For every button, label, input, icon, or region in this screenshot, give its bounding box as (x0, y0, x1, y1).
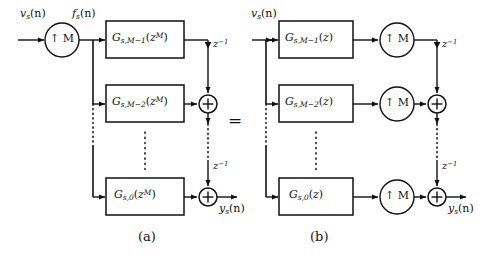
b-input-label: vs(n) (251, 8, 277, 20)
a-delay2-exp: −1 (218, 160, 228, 168)
b-upsampler-label-top: ↑ M (385, 33, 409, 44)
figure-canvas (0, 0, 504, 261)
a-delay-label-2: z−1 (213, 161, 228, 171)
b-filter-bot-base: G (289, 188, 298, 201)
a-inner-f-arg: (n) (80, 7, 96, 20)
a-input-v-arg: (n) (30, 7, 46, 20)
b-delay1-arrowhead (434, 42, 441, 49)
caption-b: (b) (310, 230, 328, 243)
a-delay1-exp: −1 (218, 38, 228, 46)
a-filter-top-close: ) (163, 31, 167, 44)
a-filter-label-bot: Gs,0(zM) (114, 189, 156, 201)
b-delay1-exp: −1 (447, 38, 457, 46)
b-filter-top-sub: s,M−1 (294, 36, 319, 45)
a-filter-bot-sup: M (144, 188, 152, 197)
a-delay-label-1: z−1 (213, 39, 228, 49)
b-filter-mid-close: ) (329, 95, 333, 108)
a-inner-label: fs(n) (72, 8, 96, 20)
b-output-label: ys(n) (448, 203, 474, 215)
a-filter-bot-base: G (114, 188, 123, 201)
b-filter-top-base: G (285, 31, 294, 44)
a-input-label: vs(n) (20, 8, 46, 20)
a-filter-label-top: Gs,M−1(zM) (112, 32, 168, 44)
caption-a: (a) (138, 230, 156, 243)
b-filter-label-mid: Gs,M−2(z) (285, 96, 333, 108)
a-filter-bot-close: ) (152, 188, 156, 201)
a-filter-mid-close: ) (163, 95, 167, 108)
b-filter-bot-sub: s,0 (298, 193, 309, 202)
a-delay1-arrowhead (205, 42, 212, 49)
b-output-y-arg: (n) (458, 202, 474, 215)
a-output-label: ys(n) (219, 203, 245, 215)
equivalence-sign: = (228, 112, 242, 129)
a-filter-mid-sub: s,M−2 (121, 100, 146, 109)
b-filter-label-top: Gs,M−1(z) (285, 32, 333, 44)
b-filter-top-close: ) (329, 31, 333, 44)
b-filter-label-bot: Gs,0(z) (289, 189, 323, 201)
b-upsampler-label-mid: ↑ M (385, 97, 409, 108)
a-upsampler-label: ↑ M (50, 33, 74, 44)
a-filter-bot-sub: s,0 (123, 193, 134, 202)
b-filter-mid-sub: s,M−2 (294, 100, 319, 109)
b-filter-mid-base: G (285, 95, 294, 108)
b-input-v-arg: (n) (261, 7, 277, 20)
a-filter-top-base: G (112, 31, 121, 44)
a-filter-mid-base: G (112, 95, 121, 108)
a-filter-label-mid: Gs,M−2(zM) (112, 96, 168, 108)
a-output-y-arg: (n) (229, 202, 245, 215)
a-filter-top-sub: s,M−1 (121, 36, 146, 45)
b-delay-label-2: z−1 (442, 161, 457, 171)
b-upsampler-label-bot: ↑ M (385, 190, 409, 201)
panel-a (18, 21, 237, 215)
b-filter-bot-close: ) (319, 188, 323, 201)
panel-b (252, 21, 466, 215)
b-delay-label-1: z−1 (442, 39, 457, 49)
b-delay2-exp: −1 (447, 160, 457, 168)
